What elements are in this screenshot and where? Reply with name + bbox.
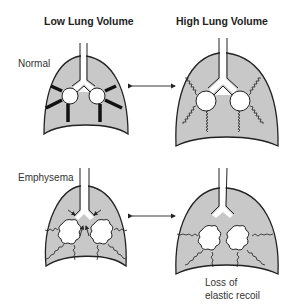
- lung-normal-high-volume: [176, 38, 278, 146]
- lung-emphysema-high-volume: [176, 168, 278, 274]
- lung-emphysema-low-volume: [45, 168, 127, 266]
- lung-normal-low-volume: [44, 43, 128, 134]
- lung-diagram: [0, 0, 296, 305]
